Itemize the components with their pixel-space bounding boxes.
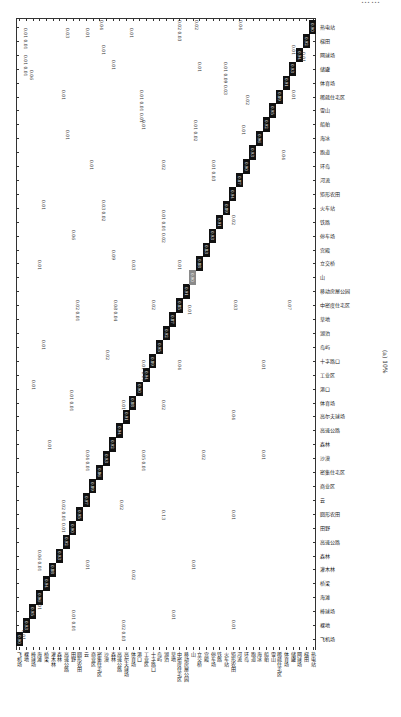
diagonal-cell: 0.88 [129,396,136,410]
diagonal-cell: 0.93 [209,229,216,243]
diagonal-cell: 0.85 [176,298,183,312]
tick-mark [16,97,19,98]
tick-mark [16,152,19,153]
tick-mark [16,166,19,167]
off-diagonal-value: 0.01 [84,560,89,570]
tick-mark [16,222,19,223]
tick-mark [86,18,87,21]
tick-mark [313,180,316,181]
tick-mark [253,647,254,650]
row-label: 雪山 [270,652,275,662]
off-diagonal-value: 0.01 [36,600,41,610]
row-label: 密集住宅区 [97,652,102,677]
column-label: 裸地 [320,623,330,628]
tick-mark [59,18,60,21]
diagonal-cell: 0.95 [76,507,83,521]
column-label: 储罐 [320,66,330,71]
tick-mark [119,647,120,650]
off-diagonal-value: 0.02 0.01 0.01 [60,500,65,533]
off-diagonal-value: 0.01 [128,28,133,38]
tick-mark [126,647,127,650]
tick-mark [246,647,247,650]
diagonal-cell: 0.91 [216,215,223,229]
off-diagonal-value: 0.01 [20,630,25,640]
tick-mark [219,647,220,650]
tick-mark [253,18,254,21]
tick-mark [16,110,19,111]
tick-mark [26,647,27,650]
tick-mark [313,389,316,390]
row-label: 体育场 [130,652,135,667]
off-diagonal-value: 0.01 0.02 [192,120,197,141]
column-label: 移动房屋公园 [320,289,350,294]
tick-mark [86,647,87,650]
tick-mark [16,41,19,42]
tick-mark [16,236,19,237]
row-label: 工业区 [144,652,149,667]
row-label: 港口 [137,652,142,662]
off-diagonal-value: 0.01 [176,260,181,270]
row-label: 森林 [57,652,62,662]
tick-mark [313,361,316,362]
off-diagonal-value: 0.02 [130,570,135,580]
tick-mark [313,55,316,56]
row-label: 桥梁 [44,652,49,662]
column-label: 海冰 [320,136,330,141]
off-diagonal-value: 0.01 0.01 [68,390,73,411]
tick-mark [16,444,19,445]
column-label: 沙漠 [320,456,330,461]
column-label: 稀疏住宅区 [320,94,345,99]
tick-mark [313,83,316,84]
column-label: 矩形农田 [320,191,340,196]
tick-mark [33,18,34,21]
row-label: 跑道 [250,652,255,662]
tick-mark [313,236,316,237]
header-text: …… [361,0,381,5]
tick-mark [16,625,19,626]
tick-mark [16,458,19,459]
tick-mark [279,647,280,650]
tick-mark [313,291,316,292]
off-diagonal-value: 0.01 0.01 0.02 [160,210,165,243]
row-label: 海冰 [257,652,262,662]
tick-mark [233,18,234,21]
tick-mark [33,647,34,650]
tick-mark [313,194,316,195]
tick-mark [286,647,287,650]
column-label: 十字路口 [320,358,340,363]
row-label: 高速公路 [64,652,69,672]
off-diagonal-value: 0.01 [290,45,295,55]
tick-mark [313,611,316,612]
row-label: 灌木林 [50,652,55,667]
diagonal-cell: 0.93 [249,145,256,159]
diagonal-cell: 0.89 [223,201,230,215]
diagonal-cell: 0.95 [269,103,276,117]
off-diagonal-value: 0.01 [290,90,295,100]
tick-mark [16,27,19,28]
off-diagonal-value: 0.01 [230,620,235,630]
row-label: 稀疏住宅区 [277,652,282,677]
off-diagonal-value: 0.06 0.01 [36,550,41,571]
tick-mark [93,647,94,650]
tick-mark [186,647,187,650]
off-diagonal-value: 0.02 0.01 [74,300,79,321]
tick-mark [313,416,316,417]
diagonal-cell: 0.93 [56,549,63,563]
diagonal-cell: 0.94 [116,423,123,437]
row-label: 宫殿 [204,652,209,662]
row-label: 矩形农田 [230,652,235,672]
off-diagonal-value: 0.01 0.03 [210,160,215,181]
column-label: 雪山 [320,108,330,113]
column-label: 火车站 [320,205,335,210]
tick-mark [16,569,19,570]
tick-mark [313,41,316,42]
diagonal-cell: 0.88 [49,563,56,577]
row-label: 储罐 [290,652,295,662]
off-diagonal-value: 0.08 0.04 [112,300,117,321]
off-diagonal-value: 0.01 [64,130,69,140]
tick-mark [16,500,19,501]
tick-mark [16,83,19,84]
tick-mark [313,277,316,278]
tick-mark [293,18,294,21]
tick-mark [313,375,316,376]
